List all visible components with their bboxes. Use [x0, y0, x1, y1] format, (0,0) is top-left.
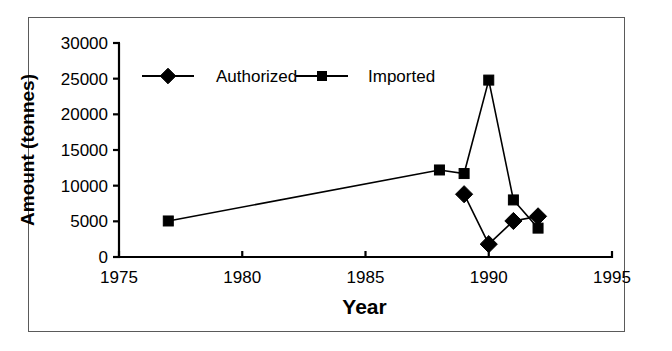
y-axis-title: Amount (tonnes): [17, 74, 38, 226]
data-point-marker: [434, 165, 444, 175]
y-axis-tick-label: 10000: [61, 177, 108, 196]
series-line: [464, 194, 538, 244]
legend-label: Imported: [368, 67, 435, 86]
series-authorized: [456, 186, 547, 253]
y-axis-tick-label: 30000: [61, 34, 108, 53]
x-axis-tick-label: 1995: [593, 268, 631, 287]
axes-layer: 0500010000150002000025000300001975198019…: [61, 34, 631, 287]
series-layer: [163, 75, 546, 253]
legend-label: Authorized: [216, 67, 297, 86]
series-imported: [163, 75, 543, 233]
data-point-marker: [163, 216, 173, 226]
data-point-marker: [533, 223, 543, 233]
data-point-marker: [456, 186, 473, 203]
data-point-marker: [508, 195, 518, 205]
chart-plot: 0500010000150002000025000300001975198019…: [0, 0, 672, 351]
legend-item-authorized[interactable]: Authorized: [142, 67, 297, 86]
legend-marker-square: [318, 72, 327, 81]
series-line: [168, 80, 538, 228]
y-axis-tick-label: 0: [99, 248, 108, 267]
y-axis-tick-label: 25000: [61, 70, 108, 89]
legend-layer: AuthorizedImported: [142, 67, 435, 86]
figure-container: 0500010000150002000025000300001975198019…: [0, 0, 672, 351]
data-point-marker: [459, 169, 469, 179]
x-axis-tick-label: 1990: [470, 268, 508, 287]
y-axis-tick-label: 20000: [61, 105, 108, 124]
x-axis-tick-label: 1980: [223, 268, 261, 287]
y-axis-tick-label: 5000: [70, 212, 108, 231]
legend-marker-diamond: [160, 68, 176, 84]
x-axis-tick-label: 1985: [347, 268, 385, 287]
x-axis-title: Year: [342, 295, 386, 318]
y-axis-tick-label: 15000: [61, 141, 108, 160]
legend-item-imported[interactable]: Imported: [296, 67, 435, 86]
data-point-marker: [484, 75, 494, 85]
x-axis-tick-label: 1975: [100, 268, 138, 287]
